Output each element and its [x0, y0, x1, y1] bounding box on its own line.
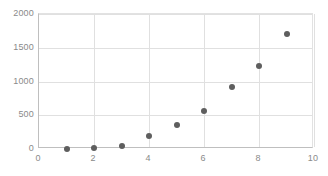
data-point: [91, 145, 97, 151]
y-tick-label: 500: [0, 109, 34, 119]
plot-area: [38, 13, 313, 148]
data-point: [201, 108, 207, 114]
gridline-horizontal: [39, 82, 312, 83]
y-axis-tick-labels: 0500100015002000: [0, 0, 34, 176]
gridline-horizontal: [39, 48, 312, 49]
data-point: [119, 143, 125, 149]
gridline-vertical: [149, 14, 150, 147]
y-tick-label: 1500: [0, 42, 34, 52]
gridline-vertical: [94, 14, 95, 147]
x-tick-label: 8: [243, 153, 273, 163]
x-axis-tick-labels: 0246810: [0, 153, 328, 169]
gridline-vertical: [204, 14, 205, 147]
x-tick-label: 0: [23, 153, 53, 163]
scatter-chart: 0500100015002000 0246810: [0, 0, 328, 176]
data-point: [146, 133, 152, 139]
x-tick-label: 4: [133, 153, 163, 163]
x-tick-label: 2: [78, 153, 108, 163]
gridline-horizontal: [39, 14, 312, 15]
x-tick-label: 10: [298, 153, 328, 163]
y-tick-label: 2000: [0, 8, 34, 18]
gridline-horizontal: [39, 115, 312, 116]
x-tick-label: 6: [188, 153, 218, 163]
data-point: [256, 63, 262, 69]
data-point: [284, 31, 290, 37]
data-point: [229, 84, 235, 90]
gridline-vertical: [259, 14, 260, 147]
gridline-vertical: [314, 14, 315, 147]
data-point: [174, 122, 180, 128]
y-tick-label: 1000: [0, 76, 34, 86]
y-tick-label: 0: [0, 143, 34, 153]
data-point: [64, 146, 70, 152]
